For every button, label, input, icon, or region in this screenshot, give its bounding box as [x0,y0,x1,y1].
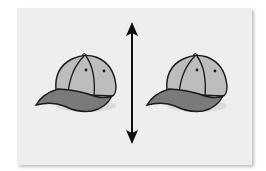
figure-description: Two identical baseball caps separated by… [0,0,1,1]
baseball-cap-icon [34,50,120,116]
cap-left [34,50,120,120]
cap-right [145,50,231,120]
double-headed-arrow-icon [124,22,140,144]
baseball-cap-icon [145,50,231,116]
double-arrow [124,22,140,148]
